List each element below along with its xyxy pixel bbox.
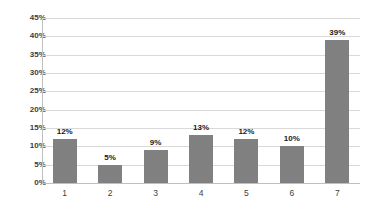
gridline-35pct <box>42 55 360 56</box>
x-tick-label-4: 4 <box>181 189 221 198</box>
bar-value-label-6: 10% <box>272 135 312 143</box>
gridline-40pct <box>42 36 360 37</box>
gridline-25pct <box>42 91 360 92</box>
x-tick-label-5: 5 <box>226 189 266 198</box>
x-tick-label-1: 1 <box>45 189 85 198</box>
bar-5[interactable] <box>234 139 258 183</box>
y-tick-label-25pct: 25% <box>6 87 46 95</box>
gridline-20pct <box>42 110 360 111</box>
y-tick-label-20pct: 20% <box>6 106 46 114</box>
x-tick-label-3: 3 <box>136 189 176 198</box>
bar-4[interactable] <box>189 135 213 183</box>
bar-1[interactable] <box>53 139 77 183</box>
y-tick-label-10pct: 10% <box>6 142 46 150</box>
y-tick-label-45pct: 45% <box>6 14 46 22</box>
bar-6[interactable] <box>280 146 304 183</box>
bar-value-label-2: 5% <box>90 154 130 162</box>
y-tick-label-30pct: 30% <box>6 69 46 77</box>
y-tick-label-5pct: 5% <box>6 161 46 169</box>
x-tick-label-2: 2 <box>90 189 130 198</box>
bar-7[interactable] <box>325 40 349 183</box>
bar-value-label-4: 13% <box>181 124 221 132</box>
gridline-45pct <box>42 18 360 19</box>
bar-value-label-3: 9% <box>136 139 176 147</box>
bar-value-label-7: 39% <box>317 29 357 37</box>
bar-value-label-1: 12% <box>45 128 85 136</box>
bar-chart: 0%5%10%15%20%25%30%35%40%45% 12%5%9%13%1… <box>0 0 368 209</box>
x-tick-label-7: 7 <box>317 189 357 198</box>
y-tick-label-35pct: 35% <box>6 51 46 59</box>
y-tick-label-0pct: 0% <box>6 179 46 187</box>
bar-2[interactable] <box>98 165 122 183</box>
gridline-0pct <box>42 183 360 184</box>
y-tick-label-15pct: 15% <box>6 124 46 132</box>
gridline-30pct <box>42 73 360 74</box>
y-tick-label-40pct: 40% <box>6 32 46 40</box>
bar-value-label-5: 12% <box>226 128 266 136</box>
bar-3[interactable] <box>144 150 168 183</box>
x-tick-label-6: 6 <box>272 189 312 198</box>
